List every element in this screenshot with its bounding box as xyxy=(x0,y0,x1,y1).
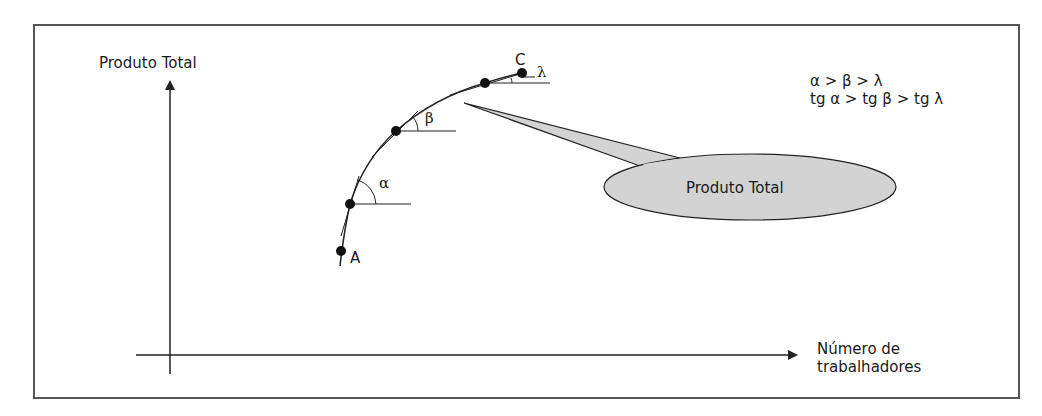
point-third xyxy=(480,78,490,88)
diagram-canvas: Produto Total Número de trabalhadores A … xyxy=(0,0,1042,416)
point-a-label: A xyxy=(350,249,360,267)
lambda-label: λ xyxy=(537,63,547,81)
angle-arc-alpha xyxy=(357,180,376,204)
x-axis-label-line1: Número de xyxy=(817,340,900,358)
total-product-curve xyxy=(340,73,522,266)
relation-angles: α > β > λ xyxy=(810,72,883,90)
alpha-label: α xyxy=(379,174,389,192)
relation-tangents: tg α > tg β > tg λ xyxy=(810,90,943,108)
point-beta xyxy=(391,126,401,136)
angle-arc-lambda xyxy=(511,78,512,83)
point-alpha xyxy=(345,199,355,209)
y-axis-label: Produto Total xyxy=(99,54,197,72)
point-c-label: C xyxy=(515,51,525,69)
callout-text: Produto Total xyxy=(686,179,784,197)
x-axis-label-line2: trabalhadores xyxy=(817,358,921,376)
beta-label: β xyxy=(425,109,434,127)
point-c xyxy=(517,68,527,78)
point-a xyxy=(336,246,346,256)
callout-tail xyxy=(464,103,680,166)
